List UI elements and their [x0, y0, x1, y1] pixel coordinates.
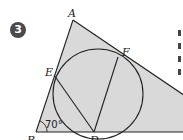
cropped-side-text [178, 30, 183, 82]
label-f: F [121, 46, 130, 59]
label-a: A [67, 7, 76, 20]
label-e: E [44, 66, 53, 79]
angle-b-label: 70° [45, 119, 63, 130]
label-b: B [26, 134, 35, 140]
geometry-figure: A E F B D 70° [0, 0, 183, 140]
label-d: D [89, 134, 99, 140]
